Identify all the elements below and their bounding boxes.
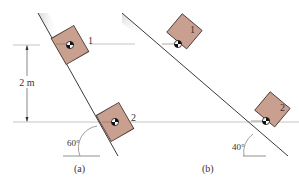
angle-label-b: 40°	[232, 142, 245, 152]
dimension-label: 2 m	[19, 77, 35, 88]
center-of-gravity-icon	[66, 41, 73, 48]
panel-a: 2 m 1 2 60° (a)	[13, 13, 299, 175]
block-1-b	[167, 14, 202, 49]
block-1-label-b: 1	[190, 24, 195, 35]
block-2-label-b: 2	[280, 102, 285, 113]
incline-b-shading	[122, 13, 288, 166]
center-of-gravity-icon	[262, 117, 269, 124]
incline-b	[122, 13, 288, 156]
caption-b: (b)	[202, 163, 214, 175]
incline-diagram: 2 m 1 2 60° (a) 1	[0, 0, 299, 183]
caption-a: (a)	[74, 163, 85, 175]
angle-label-a: 60°	[67, 138, 80, 148]
dimension-arrow-bottom	[26, 117, 29, 122]
block-1-label-a: 1	[88, 35, 93, 46]
dimension-arrow-top	[26, 45, 29, 50]
angle-arc-a	[78, 126, 97, 156]
center-of-gravity-icon	[111, 118, 118, 125]
center-of-gravity-icon	[174, 40, 181, 47]
block-2-label-a: 2	[131, 112, 136, 123]
angle-arc-b	[244, 134, 253, 156]
panel-b: 1 2 40° (b)	[122, 13, 290, 175]
